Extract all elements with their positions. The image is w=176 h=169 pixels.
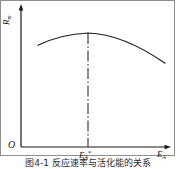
figure-container: Rm EA O EA* 图4-1 反应速率与活化能的关系: [0, 0, 176, 169]
origin-label: O: [8, 140, 15, 150]
y-axis-arrowhead: [19, 4, 24, 11]
x-axis-arrowhead: [165, 145, 172, 149]
plot-canvas: [0, 0, 176, 169]
y-axis-label-main: R: [1, 20, 11, 26]
figure-caption: 图4-1 反应速率与活化能的关系: [0, 158, 176, 169]
rate-curve: [38, 33, 165, 63]
optimum-tick-sup: *: [88, 149, 92, 157]
y-axis-label: Rm: [2, 15, 12, 25]
y-axis-label-sub: m: [6, 15, 12, 19]
